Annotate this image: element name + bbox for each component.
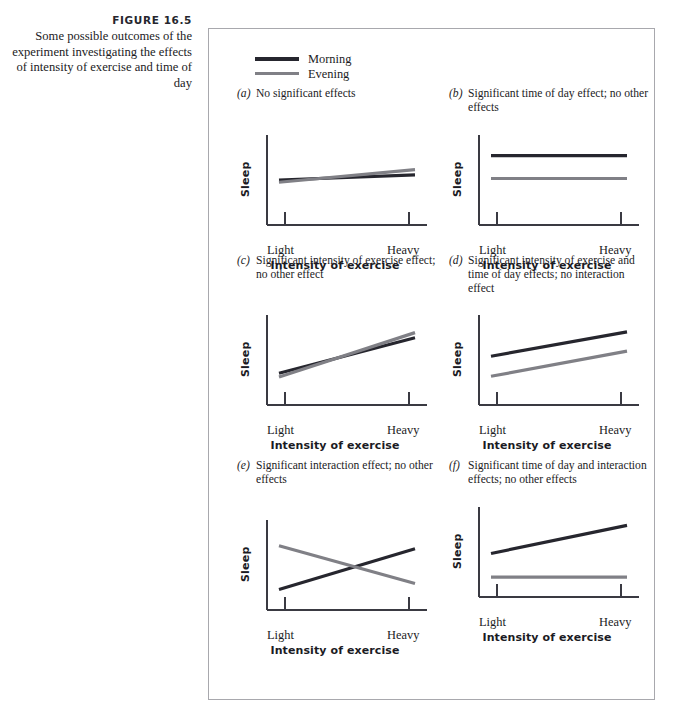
series-line-morning-e	[279, 549, 415, 590]
figure-frame: Morning Evening (a)No significant effect…	[208, 28, 655, 700]
plot-area-a: Sleep	[237, 121, 433, 243]
x-axis-label-c: Intensity of exercise	[237, 439, 433, 452]
legend-swatch-morning-icon	[255, 57, 299, 61]
y-axis-label-f: Sleep	[451, 533, 464, 569]
x-tick-label-light-f: Light	[479, 615, 506, 630]
x-axis-label-f: Intensity of exercise	[449, 631, 645, 644]
panel-a: (a)No significant effectsSleepLightHeavy…	[237, 87, 437, 272]
legend-label-morning: Morning	[308, 52, 351, 66]
panel-letter-e: (e)	[237, 459, 256, 473]
panel-c: (c)Significant intensity of exercise eff…	[237, 254, 437, 452]
panel-letter-a: (a)	[237, 87, 256, 101]
chart-legend: Morning Evening	[255, 51, 351, 81]
plot-svg-b	[449, 121, 645, 243]
panel-title-e: (e)Significant interaction effect; no ot…	[237, 459, 437, 487]
panel-b: (b)Significant time of day effect; no ot…	[449, 87, 649, 272]
plot-svg-e	[237, 506, 433, 628]
panel-title-text-f: Significant time of day and interaction …	[468, 459, 649, 487]
panel-title-d: (d)Significant intensity of exercise and…	[449, 254, 649, 295]
plot-svg-d	[449, 301, 645, 423]
x-tick-label-heavy-c: Heavy	[387, 423, 419, 438]
panel-title-spacer	[237, 282, 437, 302]
panel-title-text-a: No significant effects	[256, 87, 437, 101]
panel-title-text-d: Significant intensity of exercise and ti…	[468, 254, 649, 295]
y-axis-label-a: Sleep	[239, 161, 252, 197]
x-tick-label-heavy-d: Heavy	[599, 423, 631, 438]
plot-svg-a	[237, 121, 433, 243]
panel-f: (f)Significant time of day and interacti…	[449, 459, 649, 644]
y-axis-label-e: Sleep	[239, 547, 252, 583]
figure-caption-text: Some possible outcomes of the experiment…	[0, 29, 192, 91]
series-line-morning-f	[491, 525, 627, 553]
plot-area-e: Sleep	[237, 506, 433, 628]
x-tick-labels-e: LightHeavy	[237, 628, 433, 643]
plot-area-d: Sleep	[449, 301, 645, 423]
panel-title-a: (a)No significant effects	[237, 87, 437, 101]
figure-caption-block: FIGURE 16.5 Some possible outcomes of th…	[0, 14, 198, 91]
x-tick-labels-f: LightHeavy	[449, 615, 645, 630]
panel-title-spacer	[237, 101, 437, 121]
panel-d: (d)Significant intensity of exercise and…	[449, 254, 649, 452]
y-axis-label-c: Sleep	[239, 342, 252, 378]
x-axis-label-d: Intensity of exercise	[449, 439, 645, 452]
legend-item-morning: Morning	[255, 51, 351, 66]
plot-area-b: Sleep	[449, 121, 645, 243]
panel-title-b: (b)Significant time of day effect; no ot…	[449, 87, 649, 115]
plot-area-c: Sleep	[237, 301, 433, 423]
panel-title-text-c: Significant intensity of exercise effect…	[256, 254, 437, 282]
panel-letter-c: (c)	[237, 254, 256, 268]
panel-letter-f: (f)	[449, 459, 468, 473]
x-tick-label-light-e: Light	[267, 628, 294, 643]
legend-label-evening: Evening	[308, 67, 349, 81]
plot-svg-f	[449, 493, 645, 615]
figure-number: FIGURE 16.5	[0, 14, 192, 26]
plot-svg-c	[237, 301, 433, 423]
x-tick-labels-c: LightHeavy	[237, 423, 433, 438]
panel-letter-b: (b)	[449, 87, 468, 101]
panel-title-f: (f)Significant time of day and interacti…	[449, 459, 649, 487]
y-axis-label-d: Sleep	[451, 342, 464, 378]
series-line-morning-d	[491, 332, 627, 356]
x-tick-label-heavy-f: Heavy	[599, 615, 631, 630]
series-line-evening-d	[491, 352, 627, 377]
plot-area-f: Sleep	[449, 493, 645, 615]
panel-title-text-b: Significant time of day effect; no other…	[468, 87, 649, 115]
panel-e: (e)Significant interaction effect; no ot…	[237, 459, 437, 657]
panel-letter-d: (d)	[449, 254, 468, 268]
panel-title-text-e: Significant interaction effect; no other…	[256, 459, 437, 487]
legend-item-evening: Evening	[255, 66, 351, 81]
x-tick-label-light-c: Light	[267, 423, 294, 438]
x-tick-label-heavy-e: Heavy	[387, 628, 419, 643]
x-axis-label-e: Intensity of exercise	[237, 644, 433, 657]
x-tick-labels-d: LightHeavy	[449, 423, 645, 438]
x-tick-label-light-d: Light	[479, 423, 506, 438]
series-line-evening-e	[279, 546, 415, 584]
y-axis-label-b: Sleep	[451, 161, 464, 197]
legend-swatch-evening-icon	[255, 72, 299, 76]
panel-title-spacer	[237, 487, 437, 507]
series-line-evening-c	[279, 333, 415, 377]
panel-title-c: (c)Significant intensity of exercise eff…	[237, 254, 437, 282]
